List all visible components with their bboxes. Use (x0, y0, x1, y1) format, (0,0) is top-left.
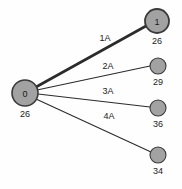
edge-label-3a: 3A (102, 86, 113, 96)
node-id-label-root: 0 (22, 89, 27, 99)
node-value-label-child-1: 26 (152, 36, 162, 46)
node-value-label-root: 26 (20, 109, 30, 119)
node-value-label-child-3: 36 (153, 119, 163, 129)
node-id-label-child-1: 1 (154, 17, 159, 27)
edge-label-2a: 2A (102, 61, 113, 71)
graph-node-child-2[interactable] (150, 58, 166, 74)
node-value-label-child-4: 34 (153, 166, 163, 176)
node-value-label-child-2: 29 (153, 77, 163, 87)
edge-label-4a: 4A (103, 111, 114, 121)
edge-layer (36, 26, 151, 152)
graph-edge-3a[interactable] (38, 94, 150, 107)
node-layer: 026126293634 (12, 9, 169, 176)
graph-svg-surface: 1A2A3A4A026126293634 (0, 0, 182, 189)
graph-edge-4a[interactable] (36, 99, 151, 152)
graph-node-child-3[interactable] (150, 100, 166, 116)
graph-node-child-4[interactable] (150, 147, 166, 163)
graph-diagram-canvas: 1A2A3A4A026126293634 (0, 0, 182, 189)
edge-label-1a: 1A (99, 33, 110, 43)
graph-edge-1a[interactable] (36, 26, 146, 87)
